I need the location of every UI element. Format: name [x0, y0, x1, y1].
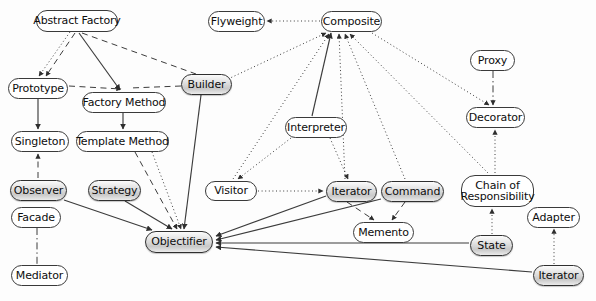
- node-label: Singleton: [13, 136, 67, 148]
- node-label: Facade: [15, 212, 57, 224]
- edge-template_method-to-objectifier: [135, 152, 177, 229]
- edge-abstract_factory-to-factory_method: [79, 33, 120, 90]
- node-visitor[interactable]: Visitor: [205, 181, 257, 201]
- node-label: Composite: [321, 16, 382, 28]
- edge-chain_of_responsibility-to-composite: [350, 34, 488, 173]
- node-interpreter[interactable]: Interpreter: [285, 117, 347, 138]
- node-label: Factory Method: [81, 97, 168, 109]
- node-mediator[interactable]: Mediator: [11, 265, 68, 286]
- node-template_method[interactable]: Template Method: [76, 131, 169, 152]
- edge-builder-to-objectifier: [184, 95, 201, 229]
- node-command[interactable]: Command: [381, 181, 444, 202]
- edge-composite-to-decorator: [372, 33, 489, 105]
- node-proxy[interactable]: Proxy: [470, 50, 515, 71]
- node-label: Proxy: [476, 55, 509, 67]
- node-label: Chain of Responsibility: [459, 180, 537, 202]
- node-flyweight[interactable]: Flyweight: [208, 11, 265, 32]
- edge-prototype-to-factory_method: [69, 86, 121, 89]
- node-prototype[interactable]: Prototype: [8, 78, 68, 99]
- node-abstract_factory[interactable]: Abstract Factory: [36, 10, 118, 32]
- node-label: Visitor: [212, 185, 250, 197]
- node-singleton[interactable]: Singleton: [11, 131, 69, 152]
- edge-builder-to-factory_method: [130, 86, 181, 88]
- edge-strategy-to-objectifier: [125, 201, 172, 229]
- node-iterator[interactable]: Iterator: [326, 181, 377, 202]
- node-factory_method[interactable]: Factory Method: [82, 92, 166, 113]
- node-label: State: [475, 240, 507, 252]
- edge-abstract_factory-to-builder: [82, 33, 196, 74]
- node-label: Decorator: [467, 112, 525, 124]
- edge-observer-to-objectifier: [64, 200, 152, 230]
- node-label: Iterator: [330, 186, 374, 198]
- node-label: Builder: [186, 79, 228, 91]
- node-label: Template Method: [74, 136, 171, 148]
- edge-abstract_factory-to-composite: [228, 33, 326, 79]
- node-label: Strategy: [90, 185, 140, 197]
- node-strategy[interactable]: Strategy: [88, 180, 141, 201]
- edge-iterator-to-composite: [339, 34, 345, 179]
- node-label: Iterator: [537, 270, 581, 282]
- node-label: Objectifier: [149, 236, 208, 248]
- edge-iterator-to-memento: [347, 202, 374, 220]
- node-label: Command: [383, 186, 443, 198]
- node-label: Flyweight: [209, 16, 265, 28]
- node-decorator[interactable]: Decorator: [466, 107, 525, 128]
- node-chain_of_responsibility[interactable]: Chain of Responsibility: [461, 175, 534, 207]
- node-adapter[interactable]: Adapter: [527, 207, 580, 228]
- node-observer[interactable]: Observer: [10, 180, 67, 201]
- edge-command-to-memento: [392, 202, 405, 220]
- node-label: Observer: [12, 185, 65, 197]
- node-label: Adapter: [530, 212, 577, 224]
- edge-abstract_factory-to-prototype: [39, 32, 70, 76]
- node-label: Prototype: [10, 83, 66, 95]
- node-state[interactable]: State: [470, 235, 513, 256]
- node-label: Mediator: [14, 270, 65, 282]
- design-pattern-diagram: Abstract FactoryFlyweightCompositeProxyP…: [0, 0, 596, 301]
- node-builder[interactable]: Builder: [181, 74, 232, 95]
- node-label: Interpreter: [285, 122, 347, 134]
- edge-iterator-to-objectifier: [216, 196, 326, 236]
- edge-abstract_factory-to-prototype: [46, 33, 75, 76]
- edge-interpreter-to-visitor: [238, 138, 291, 179]
- node-iterator2[interactable]: Iterator: [533, 265, 584, 286]
- node-label: Abstract Factory: [31, 15, 122, 27]
- edge-interpreter-to-iterator: [330, 138, 348, 179]
- node-label: Memento: [356, 227, 411, 239]
- edge-command-to-composite: [345, 34, 405, 179]
- edge-interpreter-to-composite: [312, 33, 331, 116]
- node-composite[interactable]: Composite: [321, 11, 382, 32]
- node-memento[interactable]: Memento: [353, 222, 414, 243]
- node-facade[interactable]: Facade: [11, 207, 61, 228]
- node-objectifier[interactable]: Objectifier: [145, 231, 213, 253]
